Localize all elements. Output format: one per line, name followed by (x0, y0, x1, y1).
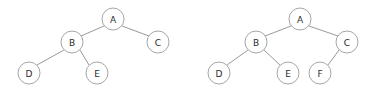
node-label-right-B: B (253, 38, 259, 48)
right-tree-nodes: ABCDEF (208, 8, 358, 84)
tree-node-left-A[interactable]: A (102, 8, 124, 30)
node-label-left-D: D (26, 69, 33, 79)
tree-node-right-B[interactable]: B (245, 31, 267, 53)
tree-node-right-F[interactable]: F (309, 62, 331, 84)
tree-node-left-B[interactable]: B (61, 31, 83, 53)
tree-node-right-D[interactable]: D (208, 62, 230, 84)
tree-node-left-D[interactable]: D (18, 62, 40, 84)
node-label-left-B: B (69, 38, 75, 48)
tree-edge-A-B (81, 26, 104, 36)
node-label-left-E: E (94, 69, 100, 79)
tree-edge-A-C (122, 26, 149, 36)
node-label-right-C: C (344, 38, 350, 48)
tree-edge-C-F (328, 50, 339, 65)
node-label-left-A: A (110, 15, 117, 25)
node-label-right-D: D (216, 69, 223, 79)
left-tree-edges (37, 26, 149, 65)
tree-edge-B-D (37, 50, 64, 65)
node-label-left-C: C (155, 38, 161, 48)
left-tree-nodes: ABCDE (18, 8, 169, 84)
tree-edge-B-E (264, 50, 280, 65)
node-label-right-A: A (297, 15, 304, 25)
binary-tree-pair-svg: ABCDEABCDEF (0, 0, 381, 95)
tree-edge-B-D (227, 50, 248, 65)
node-label-right-E: E (285, 69, 291, 79)
tree-node-right-A[interactable]: A (289, 8, 311, 30)
tree-node-right-C[interactable]: C (336, 31, 358, 53)
node-label-right-F: F (317, 69, 322, 79)
tree-node-left-E[interactable]: E (86, 62, 108, 84)
tree-node-right-E[interactable]: E (277, 62, 299, 84)
right-tree-edges (227, 26, 339, 65)
nodes-layer: ABCDEABCDEF (18, 8, 358, 84)
diagram-canvas: ABCDEABCDEF (0, 0, 381, 95)
tree-node-left-C[interactable]: C (147, 31, 169, 53)
tree-edge-A-C (309, 26, 338, 36)
tree-edge-A-B (265, 26, 291, 36)
tree-edge-B-E (80, 50, 89, 65)
